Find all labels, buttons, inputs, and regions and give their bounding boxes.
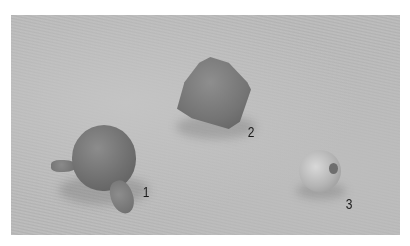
photograph: 1 2 3 <box>11 15 400 235</box>
object-1-clay-ball <box>72 125 136 191</box>
label-1: 1 <box>143 183 150 200</box>
label-3: 3 <box>346 195 353 212</box>
label-2: 2 <box>248 123 255 140</box>
object-3-hole <box>329 163 338 174</box>
